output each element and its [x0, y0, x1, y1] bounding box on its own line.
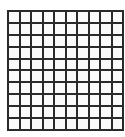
grid-cell	[55, 83, 67, 95]
grid-cell	[55, 12, 67, 24]
grid-cell	[113, 119, 125, 131]
grid-cell	[101, 12, 113, 24]
grid-cell	[9, 12, 21, 24]
grid-cell	[21, 107, 33, 119]
grid-cell	[113, 60, 125, 72]
grid-cell	[78, 119, 90, 131]
grid-cell	[9, 60, 21, 72]
grid-cell	[32, 48, 44, 60]
grid-cell	[44, 71, 56, 83]
grid-cell	[78, 107, 90, 119]
grid-cell	[9, 48, 21, 60]
grid-cell	[9, 36, 21, 48]
grid-cell	[44, 48, 56, 60]
grid-cell	[67, 60, 79, 72]
grid-cell	[67, 48, 79, 60]
grid-cell	[113, 48, 125, 60]
grid-cell	[67, 36, 79, 48]
grid-cell	[55, 24, 67, 36]
grid-cell	[9, 119, 21, 131]
grid-cell	[67, 119, 79, 131]
grid-cell	[55, 107, 67, 119]
grid-cell	[44, 107, 56, 119]
grid-cell	[55, 36, 67, 48]
grid-cell	[101, 36, 113, 48]
grid-cell	[78, 24, 90, 36]
grid-cell	[90, 36, 102, 48]
grid-cell	[113, 107, 125, 119]
grid-cell	[90, 71, 102, 83]
grid-cell	[21, 24, 33, 36]
grid-cell	[9, 107, 21, 119]
grid-cell	[90, 24, 102, 36]
grid-cell	[32, 24, 44, 36]
grid-cell	[90, 95, 102, 107]
grid-cell	[101, 60, 113, 72]
grid-cell	[78, 12, 90, 24]
grid-cell	[101, 107, 113, 119]
grid-cell	[21, 12, 33, 24]
grid-cell	[113, 12, 125, 24]
grid-cell	[32, 119, 44, 131]
grid-cell	[21, 119, 33, 131]
grid-cell	[44, 12, 56, 24]
grid-cell	[101, 83, 113, 95]
grid-cell	[90, 12, 102, 24]
grid-cell	[78, 48, 90, 60]
grid-cell	[67, 95, 79, 107]
grid-cell	[44, 60, 56, 72]
grid-cell	[90, 60, 102, 72]
grid-cell	[32, 71, 44, 83]
grid-cell	[78, 36, 90, 48]
grid-cell	[9, 83, 21, 95]
grid-cell	[44, 95, 56, 107]
grid-cell	[101, 48, 113, 60]
grid-cell	[101, 71, 113, 83]
grid-cell	[9, 24, 21, 36]
grid-cell	[55, 60, 67, 72]
grid-cell	[67, 24, 79, 36]
grid-cell	[44, 24, 56, 36]
grid-cell	[113, 36, 125, 48]
grid-cell	[113, 83, 125, 95]
grid-cell	[90, 119, 102, 131]
grid-cell	[21, 95, 33, 107]
grid-cell	[9, 95, 21, 107]
grid-cell	[90, 83, 102, 95]
grid-cell	[90, 48, 102, 60]
grid-cell	[78, 95, 90, 107]
grid-cell	[55, 119, 67, 131]
grid-cell	[21, 36, 33, 48]
grid-cell	[32, 107, 44, 119]
grid-cell	[67, 83, 79, 95]
grid-cell	[21, 48, 33, 60]
grid-cell	[55, 48, 67, 60]
grid-cell	[44, 83, 56, 95]
grid-cell	[113, 71, 125, 83]
grid-cell	[67, 12, 79, 24]
grid-cell	[78, 60, 90, 72]
grid-cell	[32, 95, 44, 107]
grid-cell	[101, 95, 113, 107]
grid-cell	[101, 24, 113, 36]
grid-cell	[67, 71, 79, 83]
grid-cell	[44, 36, 56, 48]
grid-cell	[78, 71, 90, 83]
grid-cell	[67, 107, 79, 119]
grid-cell	[32, 36, 44, 48]
grid-cell	[101, 119, 113, 131]
grid-cell	[21, 83, 33, 95]
grid-cell	[32, 83, 44, 95]
grid-cell	[21, 71, 33, 83]
grid-cell	[78, 83, 90, 95]
grid-cell	[113, 95, 125, 107]
grid-cell	[44, 119, 56, 131]
grid-cell	[113, 24, 125, 36]
grid-cell	[9, 71, 21, 83]
grid-cell	[55, 71, 67, 83]
grid-cell	[21, 60, 33, 72]
grid-cell	[90, 107, 102, 119]
grid-cell	[32, 60, 44, 72]
grid-cell	[32, 12, 44, 24]
grid-board	[7, 10, 124, 131]
